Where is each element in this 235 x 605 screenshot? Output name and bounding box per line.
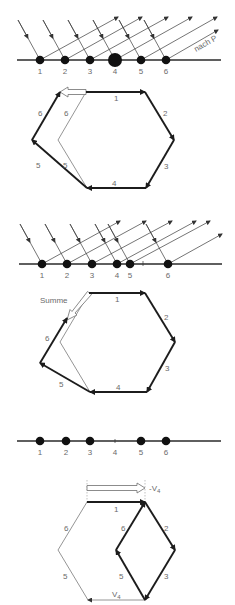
outgoing-ray (42, 221, 120, 264)
emitter-label: 1 (38, 448, 43, 457)
emitter-label: 3 (88, 448, 93, 457)
emitter-dot (162, 56, 171, 65)
emitter-label: 2 (63, 67, 68, 76)
emitter-dot (137, 56, 146, 65)
incoming-ray-arrow (43, 20, 53, 38)
emitter-dot (86, 437, 95, 446)
hexagon-3-label-2: 2 (164, 524, 169, 533)
emitter-label: 2 (64, 448, 69, 457)
hexagon-2-label-4: 4 (116, 383, 121, 392)
incoming-ray-arrow (144, 20, 154, 38)
emitter-dot (86, 56, 95, 65)
hexagon-3-label-6: 6 (121, 524, 126, 533)
panel-1-rays (18, 17, 218, 60)
panel-2-rays (20, 221, 222, 264)
hexagon-3-label-3: 3 (164, 572, 169, 581)
hexagon-2-segment-5 (40, 363, 90, 392)
panel-1-labels: 123456 (38, 67, 169, 76)
vector-4-label: V4 (112, 590, 121, 600)
emitter-label: 6 (166, 271, 171, 280)
hexagon-3-segment-2 (145, 502, 175, 550)
hexagon-1-segment-2 (145, 92, 174, 140)
emitter-dot (137, 437, 146, 446)
emitter-dot (61, 56, 70, 65)
emitter-label: 5 (139, 67, 144, 76)
panel-2-emitter-row: 123456 (19, 221, 222, 280)
hexagon-2-label-5: 5 (59, 380, 64, 389)
neg-vector-4-label: -V4 (149, 484, 161, 494)
panel-3-labels: 123456 (38, 448, 169, 457)
emitter-label: 3 (90, 271, 95, 280)
incoming-ray-arrow (93, 20, 103, 38)
emitter-dot (36, 437, 45, 446)
emitter-label: 1 (38, 67, 43, 76)
direction-label: nach P (193, 33, 219, 53)
outgoing-ray (115, 17, 192, 60)
incoming-ray-arrow (70, 224, 80, 242)
emitter-label: 3 (88, 67, 93, 76)
hexagon-1-sum-arrow (60, 87, 86, 97)
hexagon-1-label-4: 4 (112, 179, 117, 188)
emitter-label: 5 (128, 271, 133, 280)
sum-label: Summe (40, 296, 68, 305)
hexagon-3-segment-3 (145, 550, 175, 600)
hexagon-1-label-2: 2 (163, 109, 168, 118)
hexagon-2-segment-3 (147, 342, 175, 392)
outgoing-ray (67, 221, 146, 264)
hexagon-3-thin-label-5: 5 (63, 572, 68, 581)
hexagon-1-thin-label-5: 5 (63, 161, 68, 170)
hexagon-2: Summe 1 2 3 4 5 6 (40, 292, 175, 393)
emitter-dot (164, 260, 173, 269)
incoming-ray-arrow (18, 20, 28, 38)
hexagon-1-segment-3 (146, 140, 174, 188)
emitter-label: 2 (65, 271, 70, 280)
hexagon-2-label-6: 6 (45, 334, 50, 343)
emitter-label: 1 (40, 271, 45, 280)
emitter-label: 6 (164, 448, 169, 457)
emitter-label: 6 (164, 67, 169, 76)
hexagon-1-label-3: 3 (164, 162, 169, 171)
emitter-dot (62, 437, 71, 446)
incoming-ray-arrow (20, 224, 30, 242)
panel-1-emitter-row: 123456 nach P (17, 17, 221, 76)
hexagon-2-sum-arrow (67, 292, 92, 321)
emitter-label: 4 (115, 271, 120, 280)
outgoing-ray (130, 221, 210, 264)
hexagon-1-thin-path (58, 92, 87, 188)
neg-vector-arrow (87, 483, 145, 493)
incoming-ray-arrow (146, 224, 156, 242)
emitter-dot (108, 53, 122, 67)
emitter-label: 4 (113, 448, 118, 457)
emitter-dot (88, 260, 97, 269)
outgoing-ray (40, 17, 118, 60)
emitter-dot (38, 260, 47, 269)
hexagon-1-segment-6 (32, 92, 60, 140)
hexagon-3-thin-label-6: 6 (64, 524, 69, 533)
hexagon-3-thin-path (58, 502, 88, 600)
outgoing-ray (92, 221, 172, 264)
incoming-ray-arrow (45, 224, 55, 242)
emitter-dot (63, 260, 72, 269)
outgoing-ray (168, 234, 222, 264)
hexagon-2-segment-2 (145, 293, 175, 342)
panel-2-labels: 123456 (40, 271, 171, 280)
panel-3-emitter-row: 123456 (17, 437, 221, 457)
emitter-dot (113, 260, 122, 269)
hexagon-1-label-1: 1 (114, 94, 119, 103)
hexagon-3: 1 2 3 5 6 6 5 V4 -V4 (58, 480, 175, 600)
emitter-dot (126, 260, 135, 269)
emitter-label: 4 (113, 67, 118, 76)
hexagon-1-label-6: 6 (38, 109, 43, 118)
incoming-ray-arrow (95, 224, 105, 242)
emitter-label: 5 (139, 448, 144, 457)
hexagon-2-label-2: 2 (164, 313, 169, 322)
hexagon-2-label-3: 3 (165, 364, 170, 373)
hexagon-3-label-5: 5 (119, 572, 124, 581)
incoming-ray-arrow (68, 20, 78, 38)
emitter-dot (162, 437, 171, 446)
hexagon-2-label-1: 1 (115, 295, 120, 304)
wave-superposition-figure: 123456 nach P 1 2 3 4 5 6 6 5 123456 (0, 0, 235, 605)
emitter-dot (36, 56, 45, 65)
hexagon-1-label-5: 5 (36, 161, 41, 170)
hexagon-1-thin-label-6: 6 (64, 109, 69, 118)
